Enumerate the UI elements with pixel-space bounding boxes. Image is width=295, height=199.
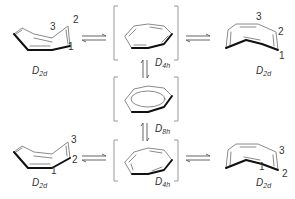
atom-label-3: 3 [50,22,56,32]
arrow-bottom-right [186,154,210,162]
atom-label-3: 3 [71,135,77,145]
diagram-canvas [0,0,295,199]
symmetry-label-d4h: D4h [155,177,170,188]
atom-label-1: 1 [279,51,285,61]
molecule-top-center [125,24,172,48]
equilibrium-arrows [82,34,210,162]
atom-label-1: 1 [51,166,57,176]
molecule-bottom-left [14,142,70,168]
atom-label-2: 2 [72,155,78,165]
arrow-top-left [82,34,106,42]
bracket-middle-left [114,77,118,121]
symmetry-label-d2d: D2d [32,178,47,189]
bracket-top-left [114,6,118,60]
atom-label-2: 2 [278,27,284,37]
molecule-top-left [14,26,70,50]
molecule-bottom-right [226,144,278,170]
cot-equilibrium-diagram: 3 2 1 3 2 1 3 2 1 3 2 1 D2d D4h D2d D8h … [0,0,295,199]
molecule-right-top [226,24,278,50]
atom-label-1: 1 [68,42,74,52]
bracket-top-right [174,6,178,60]
bracket-bottom-right [174,140,178,181]
atom-label-3: 3 [279,146,285,156]
atom-label-2: 2 [282,169,288,179]
atom-label-1: 1 [259,162,265,172]
atom-label-2: 2 [73,15,79,25]
molecule-bottom-center [125,148,172,174]
symmetry-label-d2d: D2d [32,66,47,77]
arrow-vertical-lower [141,123,149,141]
symmetry-label-d4h: D4h [155,58,170,69]
arrow-vertical-upper [141,60,149,78]
bracket-middle-right [174,77,178,121]
molecule-middle-center [125,86,172,112]
symmetry-label-d2d: D2d [256,178,271,189]
arrow-bottom-left [82,154,106,162]
symmetry-label-d2d: D2d [256,66,271,77]
arrow-top-right [186,34,210,42]
atom-label-3: 3 [256,12,262,22]
symmetry-label-d8h: D8h [155,124,170,135]
bracket-bottom-left [114,140,118,181]
